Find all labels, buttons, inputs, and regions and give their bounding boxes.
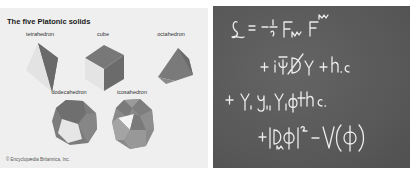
illustration-title: The five Platonic solids: [7, 17, 90, 26]
equation-line-4: [259, 125, 364, 151]
handwritten-lagrangian: [213, 6, 410, 168]
icosahedron-shape: [110, 96, 156, 152]
tetrahedron-label: tetrahedron: [26, 31, 54, 37]
equation-line-3: [226, 92, 326, 112]
copyright-credit: © Encyclopædia Britannica, Inc.: [6, 157, 70, 162]
dodecahedron-shape: [48, 97, 100, 149]
equation-line-2: [261, 54, 349, 75]
cube-shape: [82, 41, 126, 93]
octahedron-label: octahedron: [157, 31, 185, 37]
cube-label: cube: [97, 31, 109, 37]
octahedron-shape: [155, 45, 195, 87]
chalkboard-photo: ℒ = −¼ F_μν F^μν + iψ̄ D̸ ψ + h.c. + ψ_i…: [213, 6, 410, 168]
tetrahedron-shape: [22, 40, 66, 96]
platonic-solids-illustration: The five Platonic solids tetrahedron cub…: [0, 8, 208, 168]
